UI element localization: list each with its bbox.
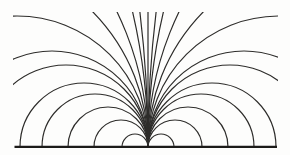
field-line-right-11 xyxy=(148,0,290,147)
field-line-left-1 xyxy=(94,120,148,147)
field-line-right-1 xyxy=(148,120,202,147)
field-lines-svg xyxy=(0,0,290,155)
field-line-right-0 xyxy=(148,134,174,147)
field-lines-figure xyxy=(0,0,290,155)
field-line-right-9 xyxy=(148,0,290,147)
field-lines-group xyxy=(0,0,290,147)
field-line-left-0 xyxy=(122,134,148,147)
field-line-right-5 xyxy=(148,65,290,147)
field-line-left-5 xyxy=(0,65,148,147)
field-line-left-7 xyxy=(0,16,148,147)
field-line-right-10 xyxy=(148,0,290,147)
field-line-right-8 xyxy=(148,0,290,147)
